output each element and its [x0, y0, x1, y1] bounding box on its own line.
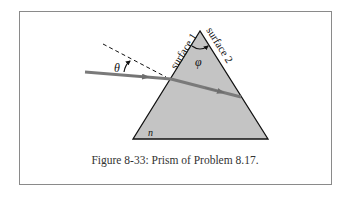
- incident-ray: [85, 72, 171, 79]
- normal-line: [103, 44, 166, 77]
- prism-diagram: θ φ n surface 1 surface 2: [0, 0, 350, 199]
- n-label: n: [148, 127, 153, 138]
- theta-arc-icon: [124, 61, 130, 72]
- theta-label: θ: [114, 61, 120, 75]
- phi-label: φ: [195, 55, 202, 69]
- prism: [133, 31, 268, 139]
- figure-caption: Figure 8-33: Prism of Problem 8.17.: [0, 154, 350, 166]
